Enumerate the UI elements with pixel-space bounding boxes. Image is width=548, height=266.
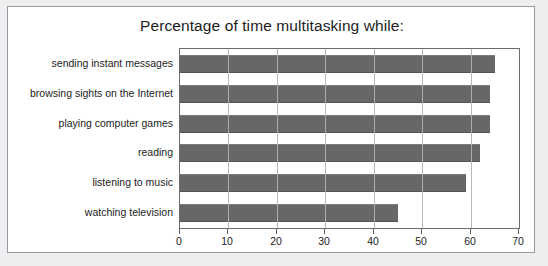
axis-tick-label: 20 bbox=[270, 235, 282, 247]
chart-title: Percentage of time multitasking while: bbox=[8, 17, 536, 35]
axis-tick bbox=[518, 229, 519, 234]
category-label: sending instant messages bbox=[8, 57, 173, 69]
gridline-overlay bbox=[374, 49, 375, 228]
bar bbox=[180, 204, 398, 222]
bar-row bbox=[180, 85, 519, 103]
axis-tick-label: 40 bbox=[367, 235, 379, 247]
gridline-overlay bbox=[277, 49, 278, 228]
chart-page: Percentage of time multitasking while: s… bbox=[0, 0, 548, 266]
gridline-overlay bbox=[471, 49, 472, 228]
axis-tick-label: 10 bbox=[221, 235, 233, 247]
axis-tick bbox=[421, 229, 422, 234]
bar-row bbox=[180, 115, 519, 133]
axis-tick-label: 50 bbox=[415, 235, 427, 247]
axis-tick-label: 0 bbox=[176, 235, 182, 247]
bar-row bbox=[180, 55, 519, 73]
gridline-overlay bbox=[325, 49, 326, 228]
category-label: browsing sights on the Internet bbox=[8, 87, 173, 99]
gridline-overlay bbox=[228, 49, 229, 228]
bar-row bbox=[180, 144, 519, 162]
gridline-overlay bbox=[422, 49, 423, 228]
bar-row bbox=[180, 174, 519, 192]
category-axis-labels: sending instant messagesbrowsing sights … bbox=[8, 48, 173, 229]
axis-tick bbox=[324, 229, 325, 234]
bar bbox=[180, 115, 490, 133]
bar bbox=[180, 85, 490, 103]
axis-tick bbox=[227, 229, 228, 234]
plot-area bbox=[179, 48, 520, 229]
category-label: listening to music bbox=[8, 176, 173, 188]
bar-row bbox=[180, 204, 519, 222]
axis-tick bbox=[470, 229, 471, 234]
category-label: playing computer games bbox=[8, 117, 173, 129]
chart-card: Percentage of time multitasking while: s… bbox=[7, 6, 535, 253]
axis-tick bbox=[276, 229, 277, 234]
category-label: watching television bbox=[8, 206, 173, 218]
axis-tick bbox=[179, 229, 180, 234]
axis-tick-label: 70 bbox=[512, 235, 524, 247]
axis-tick-label: 30 bbox=[318, 235, 330, 247]
bar bbox=[180, 174, 466, 192]
bar bbox=[180, 144, 480, 162]
axis-tick-label: 60 bbox=[464, 235, 476, 247]
category-label: reading bbox=[8, 146, 173, 158]
value-axis: 010203040506070 bbox=[179, 229, 520, 259]
axis-tick bbox=[373, 229, 374, 234]
